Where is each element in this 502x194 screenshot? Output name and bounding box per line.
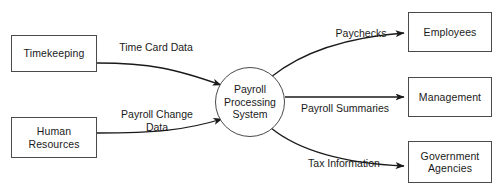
entity-employees-label: Employees	[424, 26, 477, 39]
entity-government-agencies[interactable]: Government Agencies	[408, 141, 492, 183]
entity-human-resources[interactable]: Human Resources	[11, 117, 97, 158]
flow-label-tax-information: Tax Information	[302, 157, 386, 170]
data-flow-diagram: Timekeeping Human Resources Payroll Proc…	[0, 0, 502, 194]
entity-government-agencies-label: Government Agencies	[421, 150, 480, 175]
flow-arrow-paychecks	[271, 33, 404, 77]
entity-employees[interactable]: Employees	[408, 12, 492, 52]
flow-label-time-card-data: Time Card Data	[110, 41, 202, 54]
entity-human-resources-label: Human Resources	[28, 125, 79, 150]
process-payroll-processing-system-label: Payroll Processing System	[224, 83, 276, 121]
process-payroll-processing-system[interactable]: Payroll Processing System	[215, 67, 285, 137]
flow-arrow-time-card-data	[97, 63, 221, 85]
entity-management[interactable]: Management	[408, 77, 492, 117]
entity-management-label: Management	[419, 91, 481, 104]
entity-timekeeping[interactable]: Timekeeping	[11, 35, 97, 72]
entity-timekeeping-label: Timekeeping	[24, 47, 85, 60]
flow-label-payroll-change-data: Payroll Change Data	[105, 108, 209, 133]
flow-label-payroll-summaries: Payroll Summaries	[296, 102, 394, 115]
flow-label-paychecks: Paychecks	[330, 27, 392, 40]
